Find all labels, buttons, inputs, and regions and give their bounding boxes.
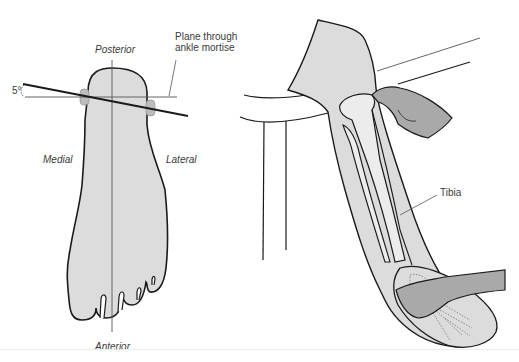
label-lateral: Lateral [166, 154, 197, 165]
plane-leader-line [169, 60, 176, 96]
bottom-divider [0, 349, 519, 350]
label-tibia: Tibia [440, 187, 461, 198]
table-edge-line [377, 38, 480, 71]
label-posterior: Posterior [95, 44, 135, 55]
label-anterior: Anterior [95, 341, 130, 352]
table [240, 93, 328, 260]
label-angle: 5° [12, 85, 22, 96]
table-edge-line-2 [398, 62, 470, 84]
label-plane-line1: Plane through [175, 31, 237, 42]
ankle-mortise-figure: Posterior Plane through ankle mortise 5°… [0, 0, 519, 362]
label-plane-line2: ankle mortise [175, 42, 234, 53]
label-medial: Medial [43, 154, 72, 165]
foot-diagram [0, 0, 519, 362]
